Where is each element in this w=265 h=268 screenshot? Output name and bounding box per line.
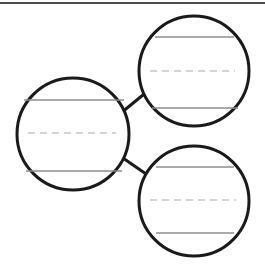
circle-bottom-right-group	[139, 146, 249, 256]
circle-top-right-group	[139, 16, 249, 126]
circles-diagram	[0, 0, 265, 268]
circle-bottom-right	[139, 146, 249, 256]
circle-left-group	[17, 78, 129, 190]
circle-left	[17, 78, 129, 190]
diagram-canvas	[0, 0, 265, 268]
